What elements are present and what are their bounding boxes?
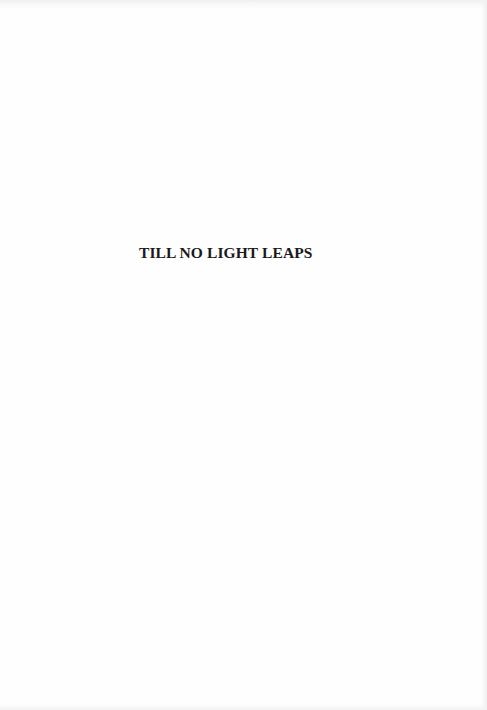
page-right-edge-shadow xyxy=(481,0,487,710)
page-top-edge-shadow xyxy=(0,0,487,10)
page-bottom-edge-shadow xyxy=(0,704,487,710)
book-page: TILL NO LIGHT LEAPS xyxy=(0,0,487,710)
half-title: TILL NO LIGHT LEAPS xyxy=(139,245,312,261)
